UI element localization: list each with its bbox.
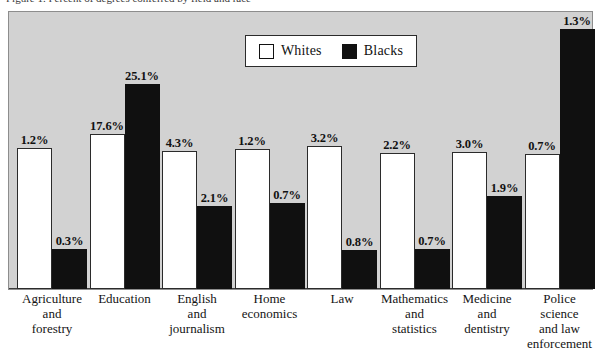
legend-label-whites: Whites — [281, 43, 322, 59]
category-label: Policescienceand lawenforcement — [518, 291, 602, 351]
bar-value-label: 2.2% — [383, 138, 411, 153]
bar-group: 0.7%1.3% — [525, 11, 595, 289]
bar-value-label: 1.3% — [563, 14, 591, 29]
bar-value-label: 0.8% — [346, 235, 374, 250]
bar-value-label: 1.2% — [238, 134, 266, 149]
bar-blacks[interactable]: 0.7% — [415, 249, 450, 289]
bar-blacks[interactable]: 1.3% — [560, 29, 595, 289]
bar-group: 3.0%1.9% — [452, 11, 522, 289]
bar-value-label: 3.2% — [311, 131, 339, 146]
legend-swatch-whites-icon — [259, 44, 274, 59]
bar-whites[interactable]: 17.6% — [90, 134, 125, 289]
bar-group: 4.3%2.1% — [162, 11, 232, 289]
bar-value-label: 1.9% — [491, 181, 519, 196]
bar-blacks[interactable]: 25.1% — [125, 84, 160, 289]
bar-value-label: 17.6% — [90, 119, 124, 134]
bar-value-label: 0.7% — [528, 139, 556, 154]
legend-swatch-blacks-icon — [342, 44, 357, 59]
bar-blacks[interactable]: 0.3% — [52, 249, 87, 289]
bar-whites[interactable]: 0.7% — [525, 154, 560, 289]
bar-value-label: 0.7% — [273, 188, 301, 203]
bar-blacks[interactable]: 0.7% — [270, 203, 305, 289]
bar-whites[interactable]: 2.2% — [380, 153, 415, 289]
category-label: Law — [300, 291, 384, 306]
bar-value-label: 1.2% — [21, 133, 49, 148]
bar-value-label: 3.0% — [456, 137, 484, 152]
legend-entry-whites: Whites — [259, 43, 322, 59]
category-axis-labels: AgricultureandforestryEducationEnglishan… — [8, 291, 593, 363]
legend-label-blacks: Blacks — [364, 43, 403, 59]
caption-text: Figure 1. Percent of degrees conferred b… — [6, 0, 251, 4]
category-label: Homeeconomics — [228, 291, 312, 321]
bar-value-label: 4.3% — [166, 136, 194, 151]
bar-group: 17.6%25.1% — [90, 11, 160, 289]
bar-value-label: 25.1% — [125, 69, 159, 84]
bar-blacks[interactable]: 2.1% — [197, 206, 232, 289]
bar-value-label: 0.3% — [56, 234, 84, 249]
bar-whites[interactable]: 3.0% — [452, 152, 487, 289]
category-label: Education — [83, 291, 167, 306]
legend-entry-blacks: Blacks — [342, 43, 403, 59]
bar-whites[interactable]: 1.2% — [17, 148, 52, 289]
bar-value-label: 0.7% — [418, 234, 446, 249]
bar-blacks[interactable]: 0.8% — [342, 250, 377, 289]
category-label: Englishandjournalism — [155, 291, 239, 336]
category-label: Agricultureandforestry — [10, 291, 94, 336]
chart-legend: Whites Blacks — [245, 35, 417, 67]
bar-whites[interactable]: 1.2% — [235, 149, 270, 289]
category-label: Mathematicsandstatistics — [373, 291, 457, 336]
bar-whites[interactable]: 4.3% — [162, 151, 197, 289]
bar-whites[interactable]: 3.2% — [307, 146, 342, 289]
bar-group: 1.2%0.3% — [17, 11, 87, 289]
category-label: Medicineanddentistry — [445, 291, 529, 336]
bar-value-label: 2.1% — [201, 191, 229, 206]
bar-blacks[interactable]: 1.9% — [487, 196, 522, 289]
caption-sliver: Figure 1. Percent of degrees conferred b… — [0, 0, 603, 9]
figure-chart: Figure 1. Percent of degrees conferred b… — [0, 0, 603, 364]
